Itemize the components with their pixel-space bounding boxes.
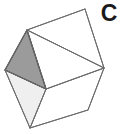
figure-label-c: C	[98, 0, 120, 26]
figure-container: C	[0, 0, 120, 134]
